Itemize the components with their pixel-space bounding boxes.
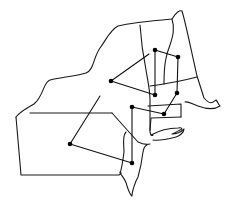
- border-ny-nj-shore: [112, 113, 150, 144]
- long-island: [151, 128, 184, 141]
- edge-n6-n7: [132, 107, 164, 114]
- node-n4: [153, 93, 158, 98]
- node-n1: [153, 48, 158, 53]
- edge-n5-n7: [164, 93, 177, 114]
- node-n2: [176, 55, 181, 60]
- node-n7: [162, 112, 167, 117]
- open-edge-n8: [70, 96, 100, 144]
- node-n3: [109, 79, 114, 84]
- node-n5: [175, 91, 180, 96]
- node-n9: [130, 161, 135, 166]
- node-n8: [68, 142, 73, 147]
- border-ma-north: [150, 77, 197, 86]
- state-borders: [16, 11, 220, 196]
- edge-n8-n9: [70, 144, 132, 163]
- northeast-map-diagram: [0, 0, 234, 207]
- edge-n2-n5: [177, 57, 178, 93]
- outline-pa: [16, 117, 121, 175]
- border-vt-nh: [164, 19, 173, 84]
- open-edge-n3: [111, 54, 149, 81]
- node-n6: [130, 105, 135, 110]
- outline-northeast: [16, 11, 220, 117]
